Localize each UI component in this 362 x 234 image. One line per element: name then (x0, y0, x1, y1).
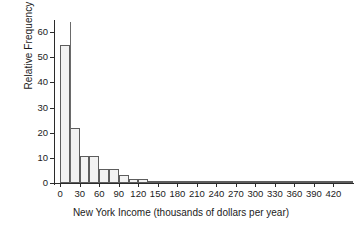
x-axis-label: New York Income (thousands of dollars pe… (0, 207, 362, 218)
histogram-bar (177, 181, 187, 183)
y-tick-label: 10 (18, 153, 48, 163)
x-tick-mark (294, 183, 295, 187)
y-tick-mark (50, 183, 54, 184)
histogram-bar (207, 181, 217, 183)
y-tick-mark (50, 108, 54, 109)
x-tick-mark (80, 183, 81, 187)
histogram-bar (109, 169, 119, 183)
histogram-bar (60, 45, 70, 183)
x-tick-mark (158, 183, 159, 187)
histogram-bar (158, 181, 168, 183)
histogram-bar (80, 156, 90, 183)
histogram-bar (236, 181, 246, 183)
x-tick-mark (255, 183, 256, 187)
histogram-figure: Relative Frequency New York Income (thou… (0, 0, 362, 234)
y-tick-mark (50, 32, 54, 33)
histogram-bar (129, 179, 139, 183)
y-tick-label: 60 (18, 27, 48, 37)
plot-area (55, 22, 353, 183)
x-tick-mark (99, 183, 100, 187)
x-tick-mark (119, 183, 120, 187)
x-tick-mark (177, 183, 178, 187)
y-tick-mark (50, 158, 54, 159)
histogram-bar (70, 128, 80, 183)
x-tick-mark (275, 183, 276, 187)
histogram-bar (246, 181, 256, 183)
histogram-bar (285, 181, 295, 183)
x-tick-mark (236, 183, 237, 187)
x-tick-label: 420 (321, 189, 345, 199)
y-tick-label: 0 (18, 178, 48, 188)
x-tick-mark (138, 183, 139, 187)
histogram-bar (197, 181, 207, 183)
x-tick-mark (333, 183, 334, 187)
y-tick-mark (50, 82, 54, 83)
histogram-bar (216, 181, 226, 183)
histogram-bar (255, 181, 265, 183)
histogram-bar (333, 181, 343, 183)
y-tick-label: 50 (18, 52, 48, 62)
histogram-bar (119, 175, 129, 183)
histogram-bar (275, 181, 285, 183)
y-tick-mark (50, 133, 54, 134)
histogram-bar (304, 181, 314, 183)
x-tick-mark (60, 183, 61, 187)
y-tick-label: 20 (18, 128, 48, 138)
histogram-bar (294, 181, 304, 183)
histogram-bar (265, 181, 275, 183)
histogram-bar (138, 179, 148, 183)
y-tick-label: 30 (18, 103, 48, 113)
y-tick-label: 40 (18, 77, 48, 87)
y-tick-mark (50, 57, 54, 58)
vertical-reference-line (70, 22, 71, 183)
histogram-bar (226, 181, 236, 183)
x-tick-mark (216, 183, 217, 187)
histogram-bar (314, 181, 324, 183)
histogram-bar (148, 181, 158, 183)
histogram-bar (89, 156, 99, 183)
histogram-bar (324, 181, 334, 183)
histogram-bar (187, 181, 197, 183)
histogram-bar (343, 181, 353, 183)
histogram-bar (99, 169, 109, 183)
x-tick-mark (314, 183, 315, 187)
histogram-bar (168, 181, 178, 183)
x-tick-mark (197, 183, 198, 187)
